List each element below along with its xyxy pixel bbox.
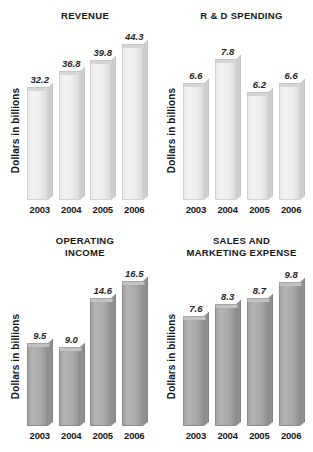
- bar-value-label: 8.7: [253, 285, 266, 296]
- x-axis-operating-income: 2003 2004 2005 2006: [24, 430, 150, 446]
- bar-front-face: [247, 95, 268, 200]
- bar-front-face: [59, 350, 80, 426]
- bar-value-label: 32.2: [31, 74, 50, 85]
- bar-value-label: 7.6: [189, 303, 202, 314]
- y-axis-label-text: Dollars in billions: [166, 87, 177, 172]
- bar[interactable]: [215, 304, 236, 426]
- bar-value-label: 8.3: [221, 291, 234, 302]
- panel-sales-marketing-expense: SALES AND MARKETING EXPENSE Dollars in b…: [156, 226, 313, 452]
- bar-side-face: [143, 40, 148, 200]
- panel-rd-spending: R & D SPENDING Dollars in billions 6.6: [156, 0, 313, 226]
- bar-side-face: [80, 67, 85, 200]
- bar-slot: 6.2: [244, 30, 276, 200]
- panel-operating-income: OPERATING INCOME Dollars in billions 9.5: [0, 226, 156, 452]
- bar[interactable]: [27, 343, 48, 426]
- x-tick-label: 2003: [180, 204, 212, 220]
- bar-side-face: [204, 312, 209, 426]
- bar-top-face: [122, 44, 145, 48]
- bar-slot: 9.8: [275, 268, 307, 426]
- bar[interactable]: [247, 92, 268, 200]
- bar-top-face: [183, 316, 206, 320]
- bar-side-face: [111, 56, 116, 200]
- bar-group-sales-marketing-expense: 7.6 8.3: [180, 268, 307, 426]
- x-tick-label: 2003: [24, 430, 56, 446]
- bar-side-face: [48, 83, 53, 200]
- bar-slot: 39.8: [87, 30, 119, 200]
- y-axis-label-text: Dollars in billions: [10, 87, 21, 172]
- bar-front-face: [27, 346, 48, 426]
- bar-top-face: [279, 282, 302, 286]
- bar-front-face: [183, 86, 204, 200]
- bar-slot: 6.6: [180, 30, 212, 200]
- panel-title-operating-income: OPERATING INCOME: [0, 235, 156, 259]
- x-tick-label: 2003: [180, 430, 212, 446]
- bar[interactable]: [59, 71, 80, 200]
- bar-value-label: 14.6: [94, 285, 113, 296]
- bar[interactable]: [183, 83, 204, 200]
- bar-side-face: [143, 277, 148, 426]
- bar-slot: 44.3: [119, 30, 151, 200]
- x-tick-label: 2006: [275, 430, 307, 446]
- bar-slot: 7.8: [212, 30, 244, 200]
- bar[interactable]: [279, 282, 300, 426]
- bar-value-label: 36.8: [62, 58, 81, 69]
- x-tick-label: 2005: [87, 204, 119, 220]
- y-axis-label-text: Dollars in billions: [166, 313, 177, 398]
- bar-group-operating-income: 9.5 9.0: [24, 268, 150, 426]
- bar-front-face: [215, 307, 236, 426]
- bar-front-face: [122, 47, 143, 200]
- bar-slot: 6.6: [275, 30, 307, 200]
- bar[interactable]: [183, 316, 204, 426]
- plot-area-operating-income: Dollars in billions 9.5 9.0: [0, 268, 152, 452]
- panel-title-sales-marketing-expense: SALES AND MARKETING EXPENSE: [156, 235, 313, 259]
- x-tick-label: 2006: [119, 430, 151, 446]
- x-tick-label: 2004: [56, 430, 88, 446]
- bar-slot: 16.5: [119, 268, 151, 426]
- bar-top-face: [59, 347, 82, 351]
- bar-group-rd-spending: 6.6 7.8: [180, 30, 307, 200]
- bar-top-face: [27, 87, 50, 91]
- bar-top-face: [279, 83, 302, 87]
- bar-side-face: [204, 79, 209, 200]
- bar-side-face: [268, 294, 273, 426]
- panel-title-revenue: REVENUE: [0, 10, 156, 22]
- bar[interactable]: [90, 60, 111, 200]
- plot-area-sales-marketing-expense: Dollars in billions 7.6 8.3: [156, 268, 309, 452]
- bar-side-face: [268, 88, 273, 200]
- bar-side-face: [111, 294, 116, 426]
- financial-bar-chart-figure: REVENUE Dollars in billions 32.2: [0, 0, 313, 452]
- bar-value-label: 9.5: [33, 330, 46, 341]
- bar-value-label: 16.5: [125, 268, 144, 279]
- y-axis-label-rd-spending: Dollars in billions: [165, 70, 178, 190]
- bar-slot: 36.8: [56, 30, 88, 200]
- bar-front-face: [90, 63, 111, 200]
- bar-slot: 7.6: [180, 268, 212, 426]
- bar[interactable]: [215, 59, 236, 200]
- bar-top-face: [59, 71, 82, 75]
- bar-slot: 9.0: [56, 268, 88, 426]
- bar[interactable]: [27, 87, 48, 200]
- bar[interactable]: [279, 83, 300, 200]
- bar-slot: 14.6: [87, 268, 119, 426]
- bar-side-face: [300, 79, 305, 200]
- plot-area-revenue: Dollars in billions 32.2 36.8: [0, 30, 152, 226]
- bar-front-face: [27, 90, 48, 200]
- bar[interactable]: [247, 298, 268, 426]
- bar-group-revenue: 32.2 36.8: [24, 30, 150, 200]
- bar[interactable]: [90, 298, 111, 426]
- bar-top-face: [247, 92, 270, 96]
- bar-top-face: [215, 304, 238, 308]
- bar-top-face: [90, 60, 113, 64]
- bar-front-face: [279, 285, 300, 426]
- bar-top-face: [183, 83, 206, 87]
- y-axis-label-operating-income: Dollars in billions: [9, 296, 22, 416]
- bar[interactable]: [122, 44, 143, 200]
- bar[interactable]: [59, 347, 80, 426]
- bar-front-face: [90, 301, 111, 426]
- x-tick-label: 2003: [24, 204, 56, 220]
- bar-value-label: 6.6: [285, 70, 298, 81]
- bar[interactable]: [122, 281, 143, 426]
- panel-revenue: REVENUE Dollars in billions 32.2: [0, 0, 156, 226]
- bar-side-face: [48, 339, 53, 426]
- x-axis-sales-marketing-expense: 2003 2004 2005 2006: [180, 430, 307, 446]
